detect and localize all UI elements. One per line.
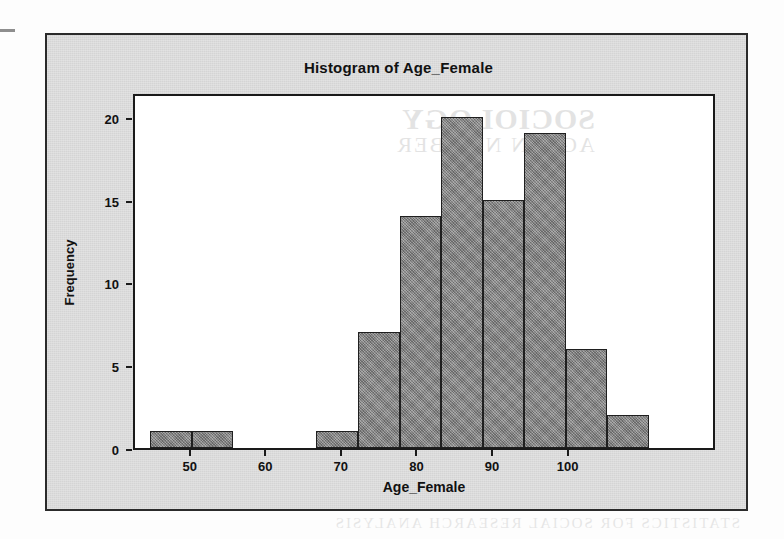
y-tick-mark: [126, 283, 132, 285]
x-tick-label: 60: [245, 459, 285, 474]
scan-artifact-mark: [0, 29, 15, 32]
x-tick-label: 50: [170, 459, 210, 474]
y-tick-label: 15: [85, 194, 119, 209]
x-tick-label: 90: [472, 459, 512, 474]
x-tick-mark: [189, 450, 191, 456]
histogram-bar: [316, 431, 358, 448]
histogram-bar: [192, 431, 234, 448]
histogram-bar: [358, 332, 400, 448]
histogram-bar: [566, 349, 608, 448]
y-tick-mark: [126, 201, 132, 203]
x-tick-label: 80: [396, 459, 436, 474]
plot-area: SOCIOLOGY AGE IN NUMBER: [133, 94, 715, 450]
x-tick-mark: [340, 450, 342, 456]
y-tick-mark: [126, 118, 132, 120]
y-tick-label: 0: [85, 443, 119, 458]
y-tick-label: 5: [85, 360, 119, 375]
x-tick-label: 70: [321, 459, 361, 474]
x-axis-title: Age_Female: [133, 479, 715, 495]
x-tick-mark: [415, 450, 417, 456]
histogram-bar: [483, 200, 525, 448]
histogram-bar: [150, 431, 192, 448]
histogram-bar: [441, 117, 483, 448]
chart-title: Histogram of Age_Female: [47, 59, 750, 76]
y-axis-title-text: Frequency: [63, 239, 78, 305]
scanned-page: Histogram of Age_Female Frequency 051015…: [0, 0, 784, 539]
histogram-bars: [135, 96, 713, 448]
x-tick-label: 100: [548, 459, 588, 474]
histogram-bar: [400, 216, 442, 448]
x-tick-mark: [491, 450, 493, 456]
scan-bleed-bottom: STATISTICS FOR SOCIAL RESEARCH ANALYSIS: [40, 515, 740, 535]
y-tick-mark: [126, 449, 132, 451]
histogram-bar: [607, 415, 649, 448]
y-tick-mark: [126, 366, 132, 368]
x-tick-mark: [264, 450, 266, 456]
x-tick-mark: [567, 450, 569, 456]
histogram-figure: Histogram of Age_Female Frequency 051015…: [45, 33, 748, 511]
y-axis-title: Frequency: [61, 94, 79, 450]
histogram-bar: [524, 133, 566, 448]
y-tick-label: 10: [85, 277, 119, 292]
y-tick-label: 20: [85, 111, 119, 126]
